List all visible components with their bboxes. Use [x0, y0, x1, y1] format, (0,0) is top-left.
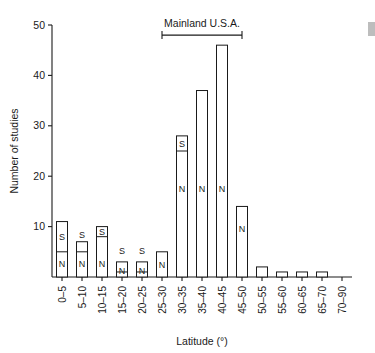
bar-55-60[interactable] [277, 272, 288, 277]
y-tick-label: 10 [33, 220, 45, 232]
x-tick-label: 70–90 [337, 286, 348, 314]
x-tick-label: 10–15 [97, 286, 108, 314]
histogram-latitude-number-of-studies: 1020304050Number of studiesSNSNSNSNSNNSN… [0, 0, 375, 353]
x-tick-label: 65–70 [317, 286, 328, 314]
scrollbar-thumb[interactable] [368, 22, 375, 36]
y-tick-label: 50 [33, 19, 45, 31]
x-tick-label: 30–35 [177, 286, 188, 314]
bar-segment-label-N: N [199, 184, 206, 194]
bar-65-70[interactable] [317, 272, 328, 277]
bar-segment-label-N: N [239, 224, 246, 234]
bar-segment-label-S: S [59, 232, 65, 242]
x-tick-label: 55–60 [277, 286, 288, 314]
bar-segment-label-N: N [99, 259, 106, 269]
chart-figure: 1020304050Number of studiesSNSNSNSNSNNSN… [0, 0, 375, 353]
x-tick-label: 50–55 [257, 286, 268, 314]
bar-segment-label-N: N [179, 184, 186, 194]
bar-segment-label-N: N [59, 259, 66, 269]
x-tick-label: 20–25 [137, 286, 148, 314]
bar-segment-label-N: N [139, 266, 146, 276]
x-tick-label: 60–65 [297, 286, 308, 314]
y-tick-label: 30 [33, 119, 45, 131]
y-tick-label: 20 [33, 170, 45, 182]
x-tick-label: 25–30 [157, 286, 168, 314]
x-tick-label: 5–10 [77, 286, 88, 309]
x-axis-title: Latitude (°) [176, 335, 227, 347]
bar-segment-label-N: N [119, 266, 126, 276]
bar-50-55[interactable] [257, 267, 268, 277]
bar-segment-label-S: S [179, 139, 185, 149]
x-tick-label: 45–50 [237, 286, 248, 314]
x-tick-label: 15–20 [117, 286, 128, 314]
bar-segment-label-S: S [79, 230, 85, 240]
bar-60-65[interactable] [297, 272, 308, 277]
bar-segment-label-N: N [79, 259, 86, 269]
bar-segment-label-N: N [159, 260, 166, 270]
bar-segment-label-N: N [219, 184, 226, 194]
x-tick-label: 40–45 [217, 286, 228, 314]
y-tick-label: 40 [33, 69, 45, 81]
bar-segment-label-S: S [99, 227, 105, 237]
x-tick-label: 0–5 [57, 286, 68, 303]
plot-area: 1020304050Number of studiesSNSNSNSNSNNSN… [8, 17, 352, 347]
bar-45-50[interactable] [237, 206, 248, 277]
annotation-label-mainland-usa: Mainland U.S.A. [164, 17, 240, 29]
bar-40-45[interactable] [217, 45, 228, 277]
bar-30-35[interactable] [177, 136, 188, 277]
bar-segment-label-S: S [139, 246, 145, 256]
y-axis-title: Number of studies [8, 108, 20, 193]
x-tick-label: 35–40 [197, 286, 208, 314]
bar-segment-label-S: S [119, 246, 125, 256]
